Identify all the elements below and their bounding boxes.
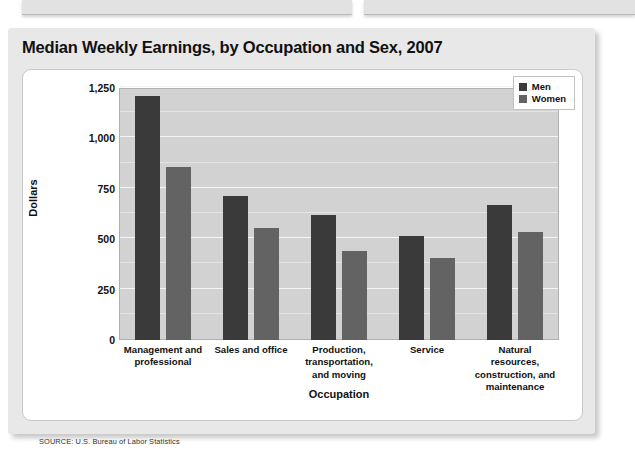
legend-label: Men bbox=[532, 81, 551, 93]
y-axis-ticks: 02505007501,0001,250 bbox=[49, 88, 115, 340]
y-axis-tick-label: 1,000 bbox=[55, 132, 115, 144]
legend-label: Women bbox=[532, 93, 566, 105]
bar-men[interactable] bbox=[311, 215, 336, 340]
bar-group bbox=[119, 88, 207, 340]
bar-women[interactable] bbox=[166, 167, 191, 340]
bar-men[interactable] bbox=[399, 236, 424, 340]
bar-group bbox=[383, 88, 471, 340]
chart-legend: MenWomen bbox=[513, 76, 575, 110]
y-axis-tick-label: 1,250 bbox=[55, 82, 115, 94]
bar-groups bbox=[119, 88, 559, 340]
y-axis-tick-label: 750 bbox=[55, 183, 115, 195]
chart-panel: 02505007501,0001,250 Dollars Management … bbox=[22, 69, 583, 421]
x-axis-category-label: Production,transportation,and moving bbox=[295, 344, 383, 394]
scan-artifact-left bbox=[22, 0, 352, 15]
y-axis-tick-label: 500 bbox=[55, 233, 115, 245]
source-note: SOURCE: U.S. Bureau of Labor Statistics bbox=[39, 437, 180, 446]
x-axis-title: Occupation bbox=[119, 388, 559, 400]
bar-group bbox=[471, 88, 559, 340]
scan-artifact-right bbox=[364, 0, 635, 15]
y-axis-tick-label: 250 bbox=[55, 284, 115, 296]
legend-swatch-icon bbox=[519, 95, 527, 103]
figure-card: Median Weekly Earnings, by Occupation an… bbox=[8, 28, 595, 434]
bar-men[interactable] bbox=[487, 205, 512, 340]
x-axis-category-label: Natural resources,construction, andmaint… bbox=[471, 344, 559, 394]
bar-women[interactable] bbox=[430, 258, 455, 340]
y-axis-tick-label: 0 bbox=[55, 334, 115, 346]
bar-group bbox=[207, 88, 295, 340]
x-axis-category-label: Management andprofessional bbox=[119, 344, 207, 394]
y-axis-title: Dollars bbox=[27, 179, 39, 216]
bar-women[interactable] bbox=[518, 232, 543, 340]
x-axis-category-label: Service bbox=[383, 344, 471, 394]
bar-women[interactable] bbox=[342, 251, 367, 340]
x-axis-labels: Management andprofessionalSales and offi… bbox=[119, 344, 559, 394]
bar-men[interactable] bbox=[223, 196, 248, 340]
bar-group bbox=[295, 88, 383, 340]
figure-title: Median Weekly Earnings, by Occupation an… bbox=[22, 38, 442, 57]
legend-swatch-icon bbox=[519, 83, 527, 91]
bar-men[interactable] bbox=[135, 96, 160, 340]
gridline-major bbox=[120, 86, 558, 87]
bar-women[interactable] bbox=[254, 228, 279, 340]
x-axis-category-label: Sales and office bbox=[207, 344, 295, 394]
legend-item-women[interactable]: Women bbox=[519, 93, 566, 105]
legend-item-men[interactable]: Men bbox=[519, 81, 566, 93]
